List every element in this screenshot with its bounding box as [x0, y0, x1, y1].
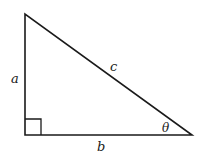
- right-triangle-diagram: a c θ b: [0, 0, 201, 155]
- triangle-outline: [25, 14, 192, 135]
- angle-theta-label: θ: [162, 121, 170, 135]
- hypotenuse-c-label: c: [110, 59, 118, 74]
- side-a-label: a: [11, 71, 19, 86]
- right-angle-marker: [25, 119, 41, 135]
- side-b-label: b: [97, 139, 105, 154]
